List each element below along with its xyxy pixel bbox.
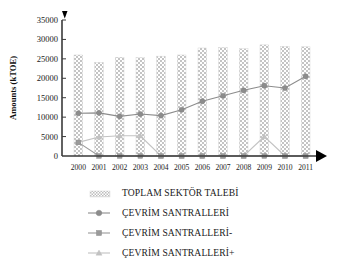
x-tick-label: 2000 xyxy=(71,163,86,172)
y-axis-tick-labels: 35000300002500020000150001000050000 xyxy=(37,15,58,161)
y-axis-title: Amounts (kTOE) xyxy=(8,56,18,120)
legend-item[interactable]: ÇEVRİM SANTRALLERİ+ xyxy=(88,247,235,258)
y-tick-label: 5000 xyxy=(41,132,58,142)
x-tick-label: 2008 xyxy=(236,163,251,172)
data-point-marker xyxy=(220,93,225,98)
x-tick-label: 2010 xyxy=(277,163,292,172)
legend-item[interactable]: TOPLAM SEKTÖR TALEBİ xyxy=(90,187,239,198)
x-axis-tick-labels: 2000200120022003200420052006200720082009… xyxy=(71,163,314,172)
legend-label: TOPLAM SEKTÖR TALEBİ xyxy=(122,187,239,198)
data-point-marker xyxy=(262,83,267,88)
bar xyxy=(239,49,248,156)
legend-marker-circle xyxy=(96,210,102,216)
x-tick-label: 2011 xyxy=(298,163,313,172)
y-tick-label: 15000 xyxy=(37,93,58,103)
y-tick-label: 25000 xyxy=(37,54,58,64)
y-tick-label: 35000 xyxy=(37,15,58,25)
x-tick-label: 2006 xyxy=(195,163,210,172)
chart-container: 35000300002500020000150001000050000 2000… xyxy=(0,0,338,276)
data-point-marker xyxy=(303,74,308,79)
chart-figure: 35000300002500020000150001000050000 2000… xyxy=(0,0,338,276)
data-point-marker xyxy=(200,99,205,104)
x-tick-label: 2009 xyxy=(257,163,272,172)
x-tick-label: 2001 xyxy=(91,163,106,172)
legend-label: ÇEVRİM SANTRALLERİ- xyxy=(122,227,232,238)
legend-item[interactable]: ÇEVRİM SANTRALLERİ xyxy=(88,207,229,218)
bar xyxy=(281,46,290,156)
data-point-marker xyxy=(96,110,101,115)
legend-label: ÇEVRİM SANTRALLERİ+ xyxy=(122,247,235,258)
y-tick-label: 30000 xyxy=(37,34,58,44)
x-tick-label: 2002 xyxy=(112,163,127,172)
y-tick-label: 0 xyxy=(54,151,58,161)
data-point-marker xyxy=(158,113,163,118)
x-tick-label: 2005 xyxy=(174,163,189,172)
x-tick-label: 2004 xyxy=(153,163,168,172)
data-point-marker xyxy=(76,140,81,145)
bar xyxy=(177,55,186,156)
up-arrow-icon xyxy=(62,11,68,19)
y-tick-label: 20000 xyxy=(37,73,58,83)
x-tick-label: 2007 xyxy=(215,163,230,172)
data-point-marker xyxy=(117,114,122,119)
y-tick-label: 10000 xyxy=(37,112,58,122)
chart-legend: TOPLAM SEKTÖR TALEBİÇEVRİM SANTRALLERİÇE… xyxy=(88,187,239,258)
data-point-marker xyxy=(138,111,143,116)
bar xyxy=(136,58,145,156)
legend-item[interactable]: ÇEVRİM SANTRALLERİ- xyxy=(88,227,232,238)
bar xyxy=(115,57,124,156)
x-tick-label: 2003 xyxy=(133,163,148,172)
legend-swatch-hatched xyxy=(90,191,110,197)
data-point-marker xyxy=(179,107,184,112)
data-point-marker xyxy=(241,88,246,93)
legend-marker-square xyxy=(96,230,101,235)
bar xyxy=(95,62,104,156)
data-point-marker xyxy=(76,111,81,116)
bar xyxy=(301,47,310,156)
bar xyxy=(219,48,228,156)
bar xyxy=(157,56,166,156)
data-point-marker xyxy=(282,85,287,90)
legend-label: ÇEVRİM SANTRALLERİ xyxy=(122,207,229,218)
